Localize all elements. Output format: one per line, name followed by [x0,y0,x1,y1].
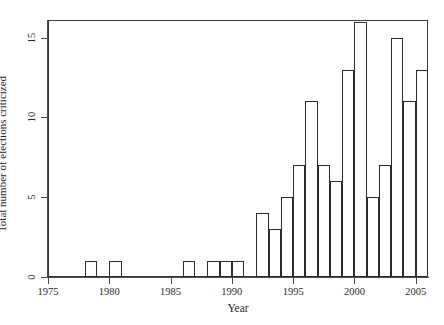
x-axis-title: Year [227,302,248,314]
histogram-figure: 051015 1975198019851990199520002005 Tota… [0,0,444,325]
y-axis-line [47,20,48,278]
x-tick-label: 2000 [344,286,365,297]
x-tick-label: 1995 [283,286,304,297]
y-tick [41,38,47,39]
histogram-bar [183,261,195,277]
histogram-bar [318,165,330,277]
y-tick-label: 10 [24,117,38,118]
histogram-bar [305,101,317,277]
x-axis-line [47,277,429,278]
histogram-bar [354,22,366,277]
histogram-bar [220,261,232,277]
x-tick [232,278,233,284]
histogram-bar [330,181,342,277]
x-tick [109,278,110,284]
x-tick [354,278,355,284]
histogram-bar [85,261,97,277]
x-tick-label: 1985 [160,286,181,297]
histogram-bar [269,229,281,277]
y-axis-title: Total number of elections criticized [0,76,8,232]
histogram-bar [293,165,305,277]
histogram-bar [109,261,121,277]
x-tick-label: 1975 [38,286,59,297]
y-tick [41,197,47,198]
bars-layer [48,20,428,277]
histogram-bar [232,261,244,277]
y-tick [41,277,47,278]
x-tick [171,278,172,284]
histogram-bar [367,197,379,277]
x-tick [48,278,49,284]
x-tick-label: 1990 [221,286,242,297]
histogram-bar [391,38,403,277]
histogram-bar [207,261,219,277]
x-tick-label: 2005 [405,286,426,297]
histogram-bar [281,197,293,277]
histogram-bar [342,70,354,278]
x-tick-label: 1980 [99,286,120,297]
x-tick [416,278,417,284]
y-tick [41,117,47,118]
histogram-bar [416,70,428,278]
histogram-bar [256,213,268,277]
histogram-bar [379,165,391,277]
y-tick-label: 15 [24,38,38,39]
histogram-bar [403,101,415,277]
x-tick [293,278,294,284]
y-tick-label: 0 [24,277,38,278]
y-tick-label: 5 [24,197,38,198]
